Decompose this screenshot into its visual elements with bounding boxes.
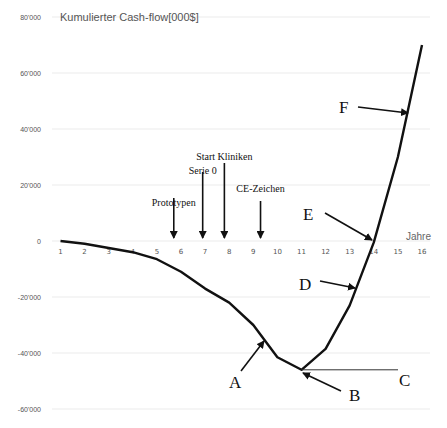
- y-tick-label: 60'000: [20, 70, 41, 77]
- x-tick-label: 9: [251, 248, 255, 256]
- x-tick-label: 1: [58, 248, 62, 256]
- cash-flow-chart: 80'00060'00040'00020'0000-20'000-40'000-…: [0, 0, 447, 428]
- point-label-a: A: [229, 373, 242, 392]
- x-tick-label: 8: [227, 248, 231, 256]
- milestone-label: Start Kliniken: [196, 151, 252, 162]
- milestone-label: Serie 0: [189, 165, 217, 176]
- point-label-f: F: [339, 98, 348, 117]
- x-tick-label: 10: [273, 248, 282, 256]
- x-axis-label: Jahre: [406, 231, 431, 242]
- point-arrow: [325, 213, 372, 240]
- y-tick-label: 80'000: [20, 14, 41, 21]
- chart-title: Kumulierter Cash-flow[000$]: [60, 11, 199, 23]
- x-tick-label: 5: [155, 248, 159, 256]
- point-arrow: [303, 373, 341, 391]
- point-arrow: [320, 281, 355, 288]
- x-tick-label: 2: [82, 248, 86, 256]
- point-arrow: [241, 341, 264, 371]
- milestone-label: Prototypen: [152, 197, 196, 208]
- y-tick-label: -20'000: [18, 294, 41, 301]
- x-tick-label: 12: [321, 248, 330, 256]
- x-tick-label: 15: [393, 248, 402, 256]
- x-tick-label: 11: [297, 248, 306, 256]
- y-tick-label: 20'000: [20, 182, 41, 189]
- gridlines: [52, 17, 430, 409]
- y-tick-label: 0: [37, 238, 41, 245]
- x-tick-label: 16: [418, 248, 427, 256]
- point-annotations: ABCDEF: [229, 98, 410, 405]
- point-label-b: B: [349, 386, 360, 405]
- y-tick-label: -60'000: [18, 406, 41, 413]
- point-label-c: C: [399, 371, 410, 390]
- x-tick-label: 7: [203, 248, 207, 256]
- point-arrow: [358, 107, 408, 113]
- point-label-d: D: [299, 275, 311, 294]
- cash-flow-line: [61, 45, 423, 370]
- x-tick-label: 6: [179, 248, 184, 256]
- y-tick-label: -40'000: [18, 350, 41, 357]
- y-tick-label: 40'000: [20, 126, 41, 133]
- milestone-arrows: PrototypenSerie 0Start KlinikenCE-Zeiche…: [152, 151, 285, 238]
- y-axis-ticks: 80'00060'00040'00020'0000-20'000-40'000-…: [18, 14, 41, 413]
- x-tick-label: 13: [345, 248, 354, 256]
- point-label-e: E: [303, 205, 313, 224]
- milestone-label: CE-Zeichen: [236, 183, 284, 194]
